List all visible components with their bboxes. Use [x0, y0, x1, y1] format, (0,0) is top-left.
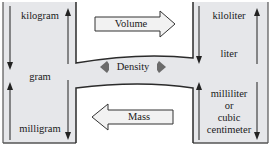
unit-conversion-diagram: kilogram gram milligram kiloliter liter … — [0, 0, 272, 147]
unit-liter: liter — [205, 48, 253, 60]
unit-gram: gram — [16, 71, 64, 83]
density-label: Density — [110, 61, 156, 73]
unit-kilogram: kilogram — [16, 10, 64, 22]
unit-milligram: milligram — [14, 123, 66, 135]
unit-kiloliter: kiloliter — [205, 10, 253, 22]
unit-cubic: cubic — [203, 112, 255, 124]
volume-label: Volume — [100, 18, 162, 30]
unit-milliliter: milliliter — [203, 88, 255, 100]
mass-label: Mass — [108, 111, 170, 123]
unit-or: or — [203, 100, 255, 112]
unit-centimeter: centimeter — [200, 124, 258, 136]
